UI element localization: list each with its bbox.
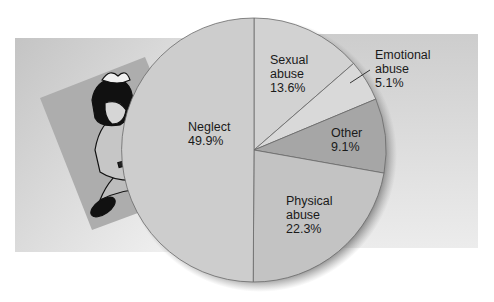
pie-chart-figure: Sexual abuse 13.6% Emotional abuse 5.1% … xyxy=(0,0,494,302)
